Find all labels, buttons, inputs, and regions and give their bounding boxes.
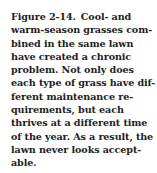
caption-line-4: have created a chronic [11,50,157,63]
caption-line-9: thrives at a different time [11,116,157,129]
caption-line-5: problem. Not only does [11,63,157,76]
caption-line-2: warm-season grasses com- [11,23,157,36]
caption-line-10: of the year. As a result, the [11,130,157,143]
caption-line-11: lawn never looks accept- [11,143,157,156]
caption-line-3: bined in the same lawn [11,37,157,50]
caption-line-12: able. [11,156,157,169]
caption-text: Cool- and [81,11,131,22]
caption-line-1: Figure 2-14.Cool- and [11,10,157,23]
figure-label: Figure 2-14. [11,11,76,22]
caption-line-7: ferent maintenance re- [11,90,157,103]
figure-caption: Figure 2-14.Cool- and warm-season grasse… [11,10,157,170]
caption-line-6: each type of grass have dif- [11,76,157,89]
caption-line-8: quirements, but each [11,103,157,116]
